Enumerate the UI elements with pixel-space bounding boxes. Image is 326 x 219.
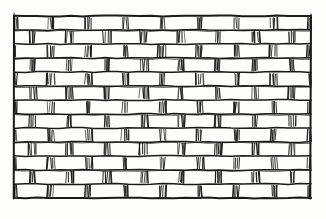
head-joint-hatch	[161, 129, 162, 141]
wall-border-right	[310, 16, 311, 199]
head-joint-hatch	[162, 74, 163, 85]
head-joint-hatch	[73, 32, 74, 43]
head-joint-shadow-stroke	[85, 185, 86, 197]
head-joint-shadow-stroke	[270, 129, 271, 141]
head-joint-hatch	[87, 73, 88, 84]
head-joint-hatch	[294, 143, 295, 155]
head-joint-hatch	[271, 45, 272, 56]
bed-joint-line	[14, 71, 311, 72]
head-joint-hatch	[54, 46, 55, 56]
head-joint-hatch	[89, 17, 90, 28]
head-joint-hatch	[275, 74, 276, 84]
head-joint-shadow-stroke	[34, 59, 35, 71]
head-joint-shadow-stroke	[260, 31, 261, 43]
head-joint-hatch	[218, 32, 219, 42]
head-joint-hatch	[254, 60, 255, 71]
head-joint-hatch	[179, 31, 180, 42]
head-joint-hatch	[289, 144, 290, 155]
head-joint-shadow-stroke	[36, 87, 37, 99]
head-joint-shadow-stroke	[252, 59, 253, 71]
head-joint-shadow-stroke	[216, 87, 217, 99]
head-joint-hatch	[52, 130, 53, 141]
head-joint-hatch	[89, 185, 90, 197]
head-joint-hatch	[219, 60, 220, 70]
head-joint-shadow-stroke	[47, 185, 48, 197]
head-joint-hatch	[163, 45, 164, 56]
head-joint-shadow-stroke	[184, 143, 185, 155]
wall-border-bottom	[14, 197, 311, 198]
head-joint-shadow-stroke	[148, 115, 149, 127]
head-joint-hatch	[235, 130, 236, 140]
head-joint-hatch	[238, 102, 239, 113]
head-joint-shadow-stroke	[204, 157, 205, 169]
head-joint-hatch	[197, 45, 198, 56]
head-joint-hatch	[307, 129, 308, 140]
head-joint-hatch	[110, 144, 111, 155]
head-joint-shadow-stroke	[238, 73, 239, 85]
head-joint-hatch	[203, 74, 204, 85]
head-joint-shadow-stroke	[147, 171, 148, 183]
head-joint-shadow-stroke	[307, 17, 308, 29]
head-joint-hatch	[54, 74, 55, 84]
head-joint-hatch	[235, 73, 236, 84]
head-joint-hatch	[182, 88, 183, 99]
head-joint-hatch	[219, 88, 220, 98]
head-joint-shadow-stroke	[104, 87, 105, 99]
head-joint-hatch	[256, 172, 257, 182]
head-joint-hatch	[105, 115, 106, 126]
head-joint-shadow-stroke	[290, 59, 291, 71]
head-joint-hatch	[88, 129, 89, 140]
head-joint-shadow-stroke	[307, 45, 308, 57]
head-joint-shadow-stroke	[48, 129, 49, 141]
head-joint-hatch	[217, 60, 218, 70]
head-joint-hatch	[141, 172, 142, 182]
head-joint-shadow-stroke	[288, 87, 289, 99]
head-joint-hatch	[16, 18, 17, 28]
head-joint-hatch	[16, 157, 17, 168]
head-joint-hatch	[89, 130, 90, 141]
head-joint-hatch	[109, 172, 110, 182]
head-joint-hatch	[294, 88, 295, 99]
head-joint-hatch	[164, 102, 165, 112]
head-joint-hatch	[71, 171, 72, 183]
head-joint-hatch	[108, 144, 109, 155]
head-joint-hatch	[182, 172, 183, 183]
head-joint-hatch	[201, 46, 202, 57]
head-joint-hatch	[257, 143, 258, 154]
head-joint-shadow-stroke	[166, 185, 167, 197]
head-joint-hatch	[218, 143, 219, 154]
head-joint-hatch	[123, 157, 124, 168]
head-joint-hatch	[160, 158, 161, 170]
head-joint-shadow-stroke	[46, 73, 47, 85]
head-joint-hatch	[163, 158, 164, 168]
head-joint-shadow-stroke	[276, 185, 277, 197]
head-joint-hatch	[160, 46, 161, 57]
head-joint-hatch	[34, 143, 35, 154]
head-joint-hatch	[276, 102, 277, 112]
head-joint-shadow-stroke	[184, 115, 185, 127]
head-joint-hatch	[235, 158, 236, 168]
head-joint-hatch	[87, 102, 88, 113]
head-joint-hatch	[239, 46, 240, 57]
brick-wall-figure	[0, 0, 326, 219]
head-joint-hatch	[103, 31, 104, 42]
head-joint-hatch	[200, 102, 201, 112]
head-joint-hatch	[256, 88, 257, 99]
head-joint-shadow-stroke	[221, 143, 222, 155]
head-joint-hatch	[271, 158, 272, 168]
head-joint-hatch	[254, 87, 255, 98]
brick-wall-drawing	[0, 0, 326, 219]
head-joint-hatch	[66, 172, 67, 182]
head-joint-hatch	[198, 158, 199, 169]
head-joint-shadow-stroke	[148, 87, 149, 99]
head-joint-hatch	[35, 172, 36, 183]
head-joint-hatch	[275, 157, 276, 168]
head-joint-hatch	[272, 185, 273, 196]
head-joint-shadow-stroke	[16, 185, 17, 197]
head-joint-hatch	[274, 18, 275, 29]
head-joint-shadow-stroke	[47, 157, 48, 169]
head-joint-hatch	[159, 102, 160, 112]
head-joint-shadow-stroke	[233, 185, 234, 197]
head-joint-hatch	[71, 31, 72, 42]
head-joint-hatch	[144, 115, 145, 127]
